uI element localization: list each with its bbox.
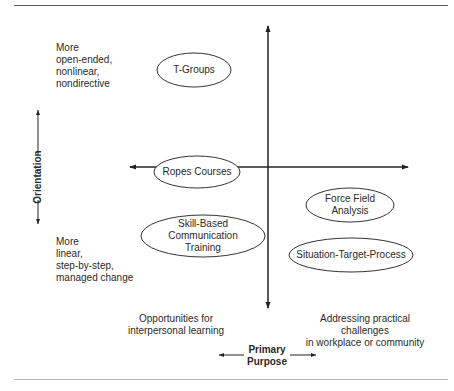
node-text: Training	[141, 242, 265, 254]
desc-line: open-ended,	[56, 54, 112, 66]
node-label-situation-target-process: Situation-Target-Process	[289, 249, 413, 261]
vertical-top-description: More open-ended, nonlinear, nondirective	[56, 42, 112, 90]
node-label-ropes-courses: Ropes Courses	[154, 166, 240, 178]
node-text: Ropes Courses	[154, 166, 240, 178]
node-text: Analysis	[306, 205, 394, 217]
node-text: Force Field	[306, 193, 394, 205]
desc-line: More	[56, 236, 133, 248]
node-text: T-Groups	[157, 64, 231, 76]
desc-line: nondirective	[56, 78, 112, 90]
horizontal-right-description: Addressing practical challenges in workp…	[297, 313, 433, 349]
orientation-label: Orientation	[32, 140, 44, 214]
desc-line: Addressing practical challenges	[297, 313, 433, 337]
node-label-skill-based-communication-training: Skill-Based Communication Training	[141, 218, 265, 254]
desc-line: in workplace or community	[297, 337, 433, 349]
horizontal-left-description: Opportunities for interpersonal learning	[126, 313, 226, 337]
desc-line: linear,	[56, 248, 133, 260]
desc-line: managed change	[56, 272, 133, 284]
vertical-bottom-description: More linear, step-by-step, managed chang…	[56, 236, 133, 284]
desc-line: nonlinear,	[56, 66, 112, 78]
bottom-rule	[14, 379, 448, 380]
desc-line: Opportunities for	[126, 313, 226, 325]
desc-line: interpersonal learning	[126, 325, 226, 337]
desc-line: step-by-step,	[56, 260, 133, 272]
label-line: Primary	[245, 344, 289, 356]
label-line: Purpose	[245, 356, 289, 368]
node-label-force-field-analysis: Force Field Analysis	[306, 193, 394, 217]
node-text: Communication	[141, 230, 265, 242]
desc-line: More	[56, 42, 112, 54]
node-label-t-groups: T-Groups	[157, 64, 231, 76]
primary-purpose-label: Primary Purpose	[245, 344, 289, 368]
node-text: Situation-Target-Process	[289, 249, 413, 261]
node-text: Skill-Based	[141, 218, 265, 230]
